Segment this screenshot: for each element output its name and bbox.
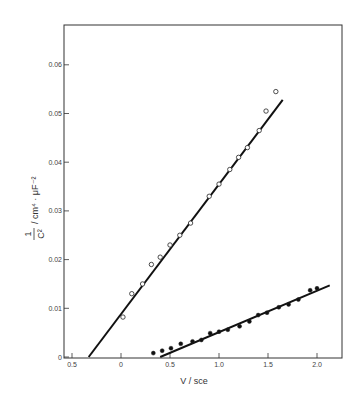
filled-data-point — [247, 319, 251, 323]
filled-data-point — [179, 342, 183, 346]
x-tick-label: 0.5 — [67, 361, 77, 368]
open-data-point — [236, 155, 240, 159]
x-tick-label: 0.5 — [165, 361, 175, 368]
filled-data-point — [226, 328, 230, 332]
y-tick-label: 0.01 — [48, 305, 62, 312]
y-tick-label: 0.02 — [48, 256, 62, 263]
y-axis-title: 1 C² / cm⁴ · μF⁻² — [23, 176, 46, 240]
y-tick-label: 0.05 — [48, 110, 62, 117]
open-data-point — [228, 167, 232, 171]
y-tick-label: 0.06 — [48, 61, 62, 68]
y-tick-label: 0 — [58, 354, 62, 361]
filled-data-point — [315, 286, 319, 290]
y-axis-units: / cm⁴ · μF⁻² — [30, 176, 40, 224]
open-data-point — [168, 243, 172, 247]
x-tick-label: 1.5 — [263, 361, 273, 368]
open-data-point — [257, 128, 261, 132]
plot-frame — [64, 25, 342, 358]
filled-data-point — [208, 331, 212, 335]
x-tick-label: 0 — [119, 361, 123, 368]
y-axis-numerator: 1 — [23, 231, 33, 236]
open-data-point — [178, 233, 182, 237]
fit-line — [160, 285, 330, 357]
open-data-point — [188, 221, 192, 225]
open-data-point — [149, 262, 153, 266]
open-data-point — [130, 291, 134, 295]
open-data-point — [207, 194, 211, 198]
data-points — [121, 89, 319, 355]
open-data-point — [245, 145, 249, 149]
filled-data-point — [277, 305, 281, 309]
open-data-point — [217, 182, 221, 186]
filled-data-point — [265, 311, 269, 315]
y-axis-ticks: 00.010.020.030.040.050.06 — [48, 61, 69, 360]
y-axis-denominator: C² — [36, 229, 46, 239]
open-data-point — [121, 315, 125, 319]
mott-schottky-chart: 0.500.51.01.52.0 00.010.020.030.040.050.… — [0, 0, 358, 401]
open-data-point — [264, 109, 268, 113]
filled-data-point — [238, 324, 242, 328]
x-axis-ticks: 0.500.51.01.52.0 — [67, 353, 322, 368]
open-data-point — [140, 282, 144, 286]
y-tick-label: 0.03 — [48, 207, 62, 214]
filled-data-point — [308, 288, 312, 292]
open-data-point — [274, 89, 278, 93]
filled-data-point — [151, 351, 155, 355]
filled-data-point — [169, 346, 173, 350]
filled-data-point — [191, 339, 195, 343]
filled-data-point — [199, 338, 203, 342]
y-tick-label: 0.04 — [48, 159, 62, 166]
filled-data-point — [287, 302, 291, 306]
x-tick-label: 2.0 — [312, 361, 322, 368]
x-tick-label: 1.0 — [214, 361, 224, 368]
filled-data-point — [256, 313, 260, 317]
x-axis-title: V / sce — [180, 376, 208, 386]
filled-data-point — [217, 330, 221, 334]
open-data-point — [158, 255, 162, 259]
filled-data-point — [296, 298, 300, 302]
filled-data-point — [160, 349, 164, 353]
